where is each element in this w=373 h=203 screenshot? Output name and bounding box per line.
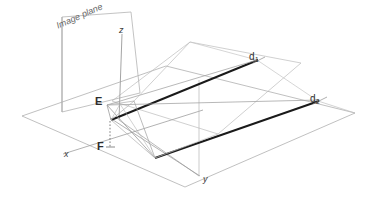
- vanishing-point-label-d1: d1: [249, 52, 258, 62]
- prism-base-extension: [155, 134, 218, 158]
- axis-label-z: z: [119, 26, 124, 35]
- diagram-canvas: Image plane z x y E F d1 d2: [0, 0, 373, 203]
- point-label-e: E: [95, 96, 102, 107]
- point-label-f: F: [97, 141, 104, 152]
- ef-dotted-drop: [106, 121, 115, 147]
- vanishing-d2-base: d: [310, 93, 316, 104]
- z-axis-line: [119, 34, 122, 120]
- vanishing-d2-subscript: 2: [316, 98, 320, 105]
- ray-e-to-far-origin: [107, 105, 155, 158]
- road-edge-far-d2: [155, 101, 319, 158]
- projection-rays: [107, 42, 318, 158]
- vanishing-point-label-d2: d2: [310, 94, 319, 104]
- axis-label-x: x: [64, 150, 69, 159]
- upper-road-plane: [112, 42, 301, 134]
- ray-e-to-d2: [107, 100, 318, 105]
- axis-label-y: y: [203, 175, 208, 184]
- vanishing-d1-subscript: 1: [255, 56, 259, 63]
- coordinate-axes: [63, 34, 203, 176]
- road-edge-near-d1: [111, 60, 258, 120]
- ray-e-fan-3: [120, 104, 155, 158]
- ray-fan-chord-2: [134, 101, 155, 158]
- vanishing-d1-base: d: [249, 51, 255, 62]
- prism-base-edge: [111, 120, 155, 158]
- ray-e-to-d1: [107, 60, 257, 105]
